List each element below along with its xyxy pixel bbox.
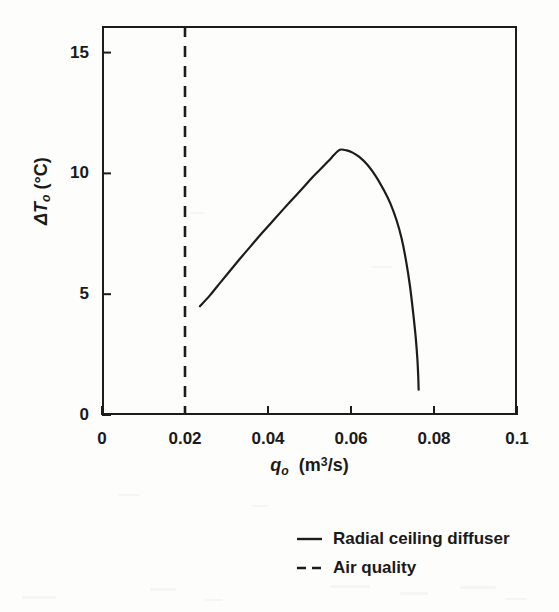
x-tick-label: 0.1 [505, 429, 529, 449]
legend: Radial ceiling diffuser Air quality [296, 524, 546, 582]
y-axis-title-delta: Δ [31, 213, 51, 225]
x-axis-title-units-open: (m [299, 455, 321, 475]
x-tick-label: 0.04 [251, 429, 284, 449]
y-axis-title-var: T [31, 202, 51, 213]
y-tick-label: 10 [70, 163, 89, 183]
figure-canvas: 051015 00.020.040.060.080.1 ΔTo (°C) qo … [0, 0, 559, 612]
legend-swatch-dashed-line [296, 561, 326, 575]
x-axis-title-units-exponent: 3 [321, 455, 328, 469]
y-axis-title: ΔTo (°C) [31, 111, 53, 271]
y-tick-label: 0 [80, 405, 89, 425]
legend-swatch-solid-line [296, 532, 326, 546]
x-axis-title-units-close: /s) [328, 455, 349, 475]
legend-item-air-quality: Air quality [296, 553, 546, 582]
y-tick-label: 15 [70, 43, 89, 63]
x-axis-title-var: q [270, 455, 281, 475]
y-axis-title-units: (°C) [31, 157, 51, 189]
x-tick-label: 0.08 [417, 429, 450, 449]
x-tick-label: 0.02 [168, 429, 201, 449]
x-tick-label: 0.06 [334, 429, 367, 449]
legend-item-radial-ceiling-diffuser: Radial ceiling diffuser [296, 524, 546, 553]
legend-label-air-quality: Air quality [333, 558, 416, 578]
legend-label-radial-ceiling-diffuser: Radial ceiling diffuser [333, 529, 510, 549]
x-axis-title: qo (m3/s) [102, 455, 517, 478]
y-axis-title-subscript: o [39, 195, 53, 202]
plot-frame [102, 26, 517, 415]
x-tick-label: 0 [97, 429, 106, 449]
x-axis-title-subscript: o [281, 464, 288, 478]
y-tick-label: 5 [80, 284, 89, 304]
